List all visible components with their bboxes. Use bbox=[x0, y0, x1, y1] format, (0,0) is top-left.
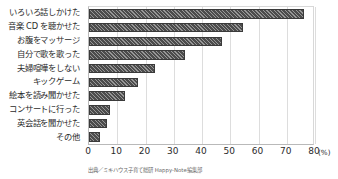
axis-tick-label: 10 bbox=[111, 146, 122, 156]
bar-row bbox=[89, 21, 313, 35]
category-label: 絵本を読み聞かせた bbox=[0, 89, 84, 103]
bar bbox=[89, 23, 243, 33]
bar-row bbox=[89, 7, 313, 21]
bar bbox=[89, 64, 155, 74]
source-caption: 出典／ミキハウス子育て総研 Happy-Note編集部 bbox=[88, 166, 338, 174]
bar-row bbox=[89, 117, 313, 131]
category-axis-labels: いろいろ話しかけた 音楽 CD を聴かせた お腹をマッサージ 自分で歌を歌った … bbox=[0, 6, 84, 145]
axis-tick-label: 30 bbox=[167, 146, 178, 156]
category-label: 自分で歌を歌った bbox=[0, 48, 84, 62]
bar-row bbox=[89, 103, 313, 117]
bar-row bbox=[89, 34, 313, 48]
bar-row bbox=[89, 62, 313, 76]
axis-tick-label: 0 bbox=[85, 146, 91, 156]
category-label: 英会話を聞かせた bbox=[0, 117, 84, 131]
bar bbox=[89, 132, 100, 142]
axis-tick-label: 70 bbox=[280, 146, 291, 156]
axis-tick-label: 60 bbox=[252, 146, 263, 156]
category-label: 夫婦喧嘩をしない bbox=[0, 62, 84, 76]
bar bbox=[89, 105, 110, 115]
axis-tick-label: 40 bbox=[195, 146, 206, 156]
bar-row bbox=[89, 130, 313, 144]
gridline bbox=[315, 7, 316, 144]
bar-series bbox=[89, 7, 313, 144]
category-label: その他 bbox=[0, 131, 84, 145]
category-label: お腹をマッサージ bbox=[0, 34, 84, 48]
category-label: 音楽 CD を聴かせた bbox=[0, 20, 84, 34]
bar-row bbox=[89, 89, 313, 103]
bar bbox=[89, 9, 304, 19]
bar bbox=[89, 50, 185, 60]
category-label: コンサートに行った bbox=[0, 103, 84, 117]
bar-row bbox=[89, 48, 313, 62]
bar bbox=[89, 78, 138, 88]
axis-unit-label: (%) bbox=[318, 148, 330, 157]
category-label: いろいろ話しかけた bbox=[0, 6, 84, 20]
value-axis: 01020304050607080 bbox=[88, 146, 314, 160]
plot-area bbox=[88, 6, 314, 145]
bar bbox=[89, 37, 222, 47]
bar-row bbox=[89, 76, 313, 90]
axis-tick-label: 20 bbox=[139, 146, 150, 156]
bar bbox=[89, 119, 107, 129]
bar-chart: いろいろ話しかけた 音楽 CD を聴かせた お腹をマッサージ 自分で歌を歌った … bbox=[0, 0, 338, 179]
category-label: キックゲーム bbox=[0, 75, 84, 89]
bar bbox=[89, 91, 125, 101]
axis-tick-label: 50 bbox=[224, 146, 235, 156]
